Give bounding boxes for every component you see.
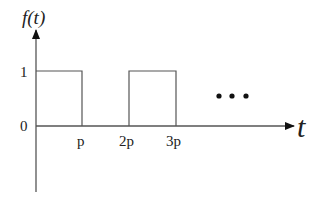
- x-tick-2p: 2p: [119, 133, 134, 149]
- x-axis-label: t: [297, 110, 306, 143]
- continuation-dot: [216, 93, 221, 98]
- y-tick-0: 0: [20, 118, 28, 134]
- x-tick-3p: 3p: [166, 133, 181, 149]
- continuation-dot: [243, 93, 248, 98]
- pulse-1: [36, 71, 82, 126]
- x-tick-p: p: [77, 133, 85, 149]
- pulse-2: [129, 71, 176, 126]
- y-tick-1: 1: [20, 64, 28, 80]
- square-wave-diagram: f(t) 1 0 p 2p 3p t: [0, 0, 326, 202]
- y-axis-label: f(t): [22, 7, 45, 29]
- continuation-dot: [229, 93, 234, 98]
